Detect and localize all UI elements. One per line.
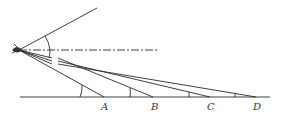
point-label-b: B [150, 101, 158, 112]
sight-line-c [58, 61, 210, 97]
eye-icon [12, 44, 22, 53]
point-label-a: A [100, 101, 108, 112]
point-label-c: C [207, 101, 215, 112]
angle-mark-a [80, 85, 82, 97]
upper-sight-line [19, 8, 97, 50]
point-label-d: D [252, 101, 261, 112]
sight-line-a [19, 50, 104, 97]
eye-sightline-diagram: A B C D [0, 0, 282, 119]
depression-angle-arc [49, 50, 50, 58]
upper-angle-arc [45, 36, 50, 50]
sight-line-d [58, 64, 256, 97]
